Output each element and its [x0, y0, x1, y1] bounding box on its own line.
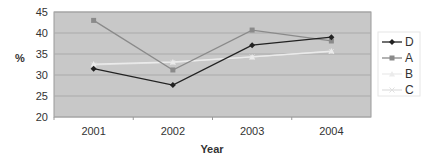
square-marker — [390, 56, 395, 61]
x-axis: 2001200220032004 — [54, 117, 344, 137]
legend-label: D — [405, 35, 414, 49]
y-tick-label: 40 — [36, 27, 48, 39]
square-marker — [250, 28, 255, 33]
x-tick-label: 2002 — [161, 125, 185, 137]
y-axis-title: % — [15, 52, 25, 64]
legend: DABC — [378, 32, 420, 97]
x-axis-title: Year — [200, 143, 224, 155]
x-tick-label: 2001 — [81, 125, 105, 137]
x-tick-label: 2004 — [319, 125, 343, 137]
square-marker — [170, 67, 175, 72]
y-tick-label: 30 — [36, 69, 48, 81]
legend-label: A — [405, 51, 413, 65]
y-tick-label: 20 — [36, 111, 48, 123]
y-tick-label: 35 — [36, 48, 48, 60]
line-chart: 202530354045 2001200220032004 % Year DAB… — [0, 0, 442, 161]
legend-label: B — [405, 67, 413, 81]
x-tick-label: 2003 — [240, 125, 264, 137]
y-tick-label: 45 — [36, 6, 48, 18]
square-marker — [91, 18, 96, 23]
y-axis: 202530354045 — [36, 6, 48, 123]
legend-label: C — [405, 83, 414, 97]
y-tick-label: 25 — [36, 90, 48, 102]
